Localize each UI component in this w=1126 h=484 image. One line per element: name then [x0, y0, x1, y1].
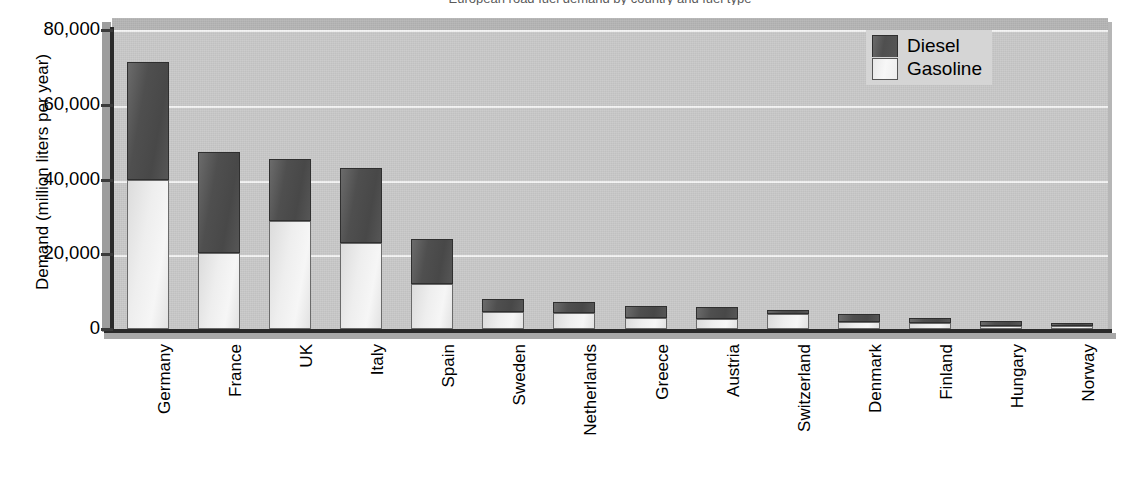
- bar-netherlands[interactable]: [553, 302, 595, 329]
- bar-uk[interactable]: [269, 159, 311, 329]
- legend-label-diesel: Diesel: [907, 36, 960, 55]
- bar-segment-diesel: [340, 168, 382, 243]
- bar-hungary[interactable]: [980, 321, 1022, 329]
- bar-segment-diesel: [269, 159, 311, 221]
- bar-germany[interactable]: [127, 62, 169, 329]
- legend-label-gasoline: Gasoline: [907, 59, 982, 78]
- x-tick-label-text: Spain: [439, 344, 459, 387]
- bar-segment-diesel: [553, 302, 595, 313]
- bar-segment-gasoline: [553, 313, 595, 329]
- bar-segment-gasoline: [1051, 326, 1093, 329]
- chart-legend: Diesel Gasoline: [866, 30, 992, 85]
- x-tick-label-spain: Spain: [439, 344, 459, 387]
- x-tick-label-text: Sweden: [510, 344, 530, 405]
- x-tick-label-greece: Greece: [653, 344, 673, 400]
- bar-segment-gasoline: [411, 284, 453, 329]
- bar-segment-gasoline: [340, 243, 382, 329]
- x-tick-label-text: Finland: [937, 344, 957, 400]
- bar-segment-gasoline: [127, 180, 169, 330]
- bar-spain[interactable]: [411, 239, 453, 329]
- bar-segment-gasoline: [198, 253, 240, 329]
- x-tick-label-text: Austria: [724, 344, 744, 397]
- x-tick-label-sweden: Sweden: [510, 344, 530, 405]
- bar-sweden[interactable]: [482, 299, 524, 329]
- bar-segment-diesel: [127, 62, 169, 180]
- legend-swatch-gasoline-icon: [872, 58, 898, 80]
- legend-item-gasoline[interactable]: Gasoline: [872, 57, 982, 80]
- x-tick-label-uk: UK: [297, 344, 317, 368]
- bar-segment-diesel: [198, 152, 240, 253]
- bar-segment-gasoline: [767, 314, 809, 329]
- bar-austria[interactable]: [696, 307, 738, 329]
- bar-italy[interactable]: [340, 168, 382, 329]
- x-tick-label-text: UK: [297, 344, 317, 368]
- bar-segment-diesel: [1051, 323, 1093, 326]
- x-tick-label-italy: Italy: [368, 344, 388, 375]
- bar-segment-diesel: [838, 314, 880, 321]
- bar-segment-diesel: [980, 321, 1022, 325]
- x-tick-label-switzerland: Switzerland: [795, 344, 815, 432]
- x-tick-label-text: Switzerland: [795, 344, 815, 432]
- bar-segment-gasoline: [269, 221, 311, 329]
- x-tick-label-text: Netherlands: [581, 344, 601, 436]
- bar-greece[interactable]: [625, 306, 667, 329]
- bar-segment-diesel: [411, 239, 453, 284]
- x-tick-label-france: France: [226, 344, 246, 397]
- bar-segment-diesel: [625, 306, 667, 318]
- x-tick-label-text: Norway: [1079, 344, 1099, 402]
- x-tick-label-hungary: Hungary: [1008, 344, 1028, 408]
- x-tick-label-text: Greece: [653, 344, 673, 400]
- bar-france[interactable]: [198, 152, 240, 329]
- legend-swatch-diesel-icon: [872, 35, 898, 57]
- bar-segment-gasoline: [909, 323, 951, 329]
- bar-segment-gasoline: [482, 312, 524, 329]
- bar-norway[interactable]: [1051, 323, 1093, 329]
- bar-segment-gasoline: [625, 318, 667, 329]
- bar-segment-gasoline: [980, 326, 1022, 329]
- legend-item-diesel[interactable]: Diesel: [872, 34, 982, 57]
- bar-segment-gasoline: [838, 322, 880, 329]
- x-tick-label-text: Italy: [368, 344, 388, 375]
- x-tick-label-text: Hungary: [1008, 344, 1028, 408]
- bar-segment-diesel: [482, 299, 524, 311]
- x-tick-label-germany: Germany: [155, 344, 175, 414]
- x-tick-label-netherlands: Netherlands: [581, 344, 601, 436]
- x-tick-label-text: Denmark: [866, 344, 886, 413]
- bar-switzerland[interactable]: [767, 310, 809, 329]
- chart-figure: European road fuel demand by country and…: [0, 0, 1126, 484]
- x-tick-label-text: France: [226, 344, 246, 397]
- x-tick-label-austria: Austria: [724, 344, 744, 397]
- bar-finland[interactable]: [909, 318, 951, 329]
- bar-segment-diesel: [696, 307, 738, 319]
- x-tick-label-finland: Finland: [937, 344, 957, 400]
- bar-segment-gasoline: [696, 319, 738, 329]
- x-tick-label-norway: Norway: [1079, 344, 1099, 402]
- x-tick-label-text: Germany: [155, 344, 175, 414]
- bar-segment-diesel: [909, 318, 951, 323]
- bar-segment-diesel: [767, 310, 809, 314]
- x-tick-label-denmark: Denmark: [866, 344, 886, 413]
- bar-denmark[interactable]: [838, 314, 880, 329]
